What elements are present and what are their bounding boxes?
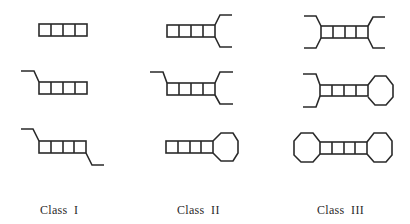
class1-stem-both-tails <box>21 129 104 165</box>
class3-stem-left-fork-right-loop <box>303 74 393 107</box>
class3-label: Class III <box>317 203 364 218</box>
class3-stem-both-forks <box>304 16 385 48</box>
class1-label: Class I <box>40 203 78 218</box>
class3-stem-both-loops <box>294 133 392 162</box>
class2-stem-right-fork <box>167 15 232 47</box>
structure-diagram <box>0 0 410 224</box>
class2-stem-left-tail-right-fork <box>150 72 233 104</box>
class2-label: Class II <box>177 203 220 218</box>
class2-stem-right-loop <box>166 133 238 161</box>
class1-stem-left-tail <box>21 71 87 94</box>
class1-stem-only <box>39 24 87 36</box>
